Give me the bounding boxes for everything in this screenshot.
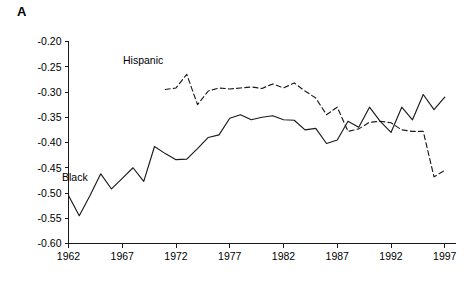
series-line-hispanic [165,74,445,177]
y-axis-tick-label: -0.60 [38,237,62,249]
y-axis-tick-label: -0.50 [38,187,62,199]
panel-label: A [17,5,27,18]
y-axis-tick-label: -0.55 [38,212,62,224]
y-axis-tick-label: -0.45 [38,162,62,174]
y-axis-tick-label: -0.40 [38,136,62,148]
x-axis-tick-label: 1987 [326,250,350,262]
data-series-group [69,74,445,215]
y-axis-tick-label: -0.20 [38,35,62,47]
x-axis-tick-label: 1992 [379,250,403,262]
x-axis-tick-label: 1962 [57,250,81,262]
x-axis-tick-label: 1972 [164,250,188,262]
hispanic-series-label: Hispanic [123,55,163,66]
x-axis-tick-label: 1967 [111,250,135,262]
x-axis-tick-label: 1982 [272,250,296,262]
x-axis: 19621967197219771982198719921997 [57,244,457,262]
y-axis-tick-label: -0.35 [38,111,62,123]
black-series-label: Black [62,172,88,183]
y-axis-tick-label: -0.25 [38,61,62,73]
y-axis: -0.20-0.25-0.30-0.35-0.40-0.45-0.50-0.55… [38,35,69,249]
x-axis-tick-label: 1977 [218,250,242,262]
figure-panel-a: A Hispanic Black -0.20-0.25-0.30-0.35-0.… [0,0,473,284]
line-chart-plot-area: -0.20-0.25-0.30-0.35-0.40-0.45-0.50-0.55… [0,0,473,284]
y-axis-tick-label: -0.30 [38,86,62,98]
x-axis-tick-label: 1997 [433,250,457,262]
series-line-black [69,95,445,216]
